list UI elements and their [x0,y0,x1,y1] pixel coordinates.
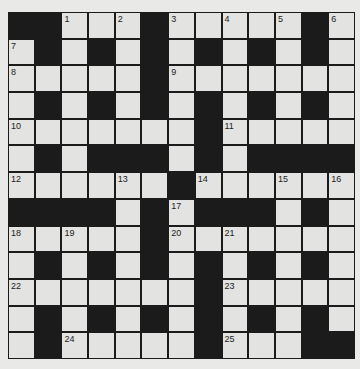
answer-square[interactable] [276,200,301,225]
answer-square[interactable]: 11 [223,120,248,145]
answer-square[interactable]: 1 [62,13,87,38]
answer-square[interactable] [116,93,141,118]
answer-square[interactable] [116,66,141,91]
answer-square[interactable] [89,120,114,145]
answer-square[interactable] [303,120,328,145]
answer-square[interactable] [303,66,328,91]
answer-square[interactable] [36,120,61,145]
answer-square[interactable] [329,253,354,278]
answer-square[interactable] [142,333,167,358]
answer-square[interactable]: 4 [223,13,248,38]
answer-square[interactable] [36,66,61,91]
answer-square[interactable] [276,40,301,65]
answer-square[interactable] [169,333,194,358]
answer-square[interactable] [9,146,34,171]
answer-square[interactable] [303,280,328,305]
answer-square[interactable] [89,173,114,198]
answer-square[interactable] [62,120,87,145]
answer-square[interactable] [276,253,301,278]
answer-square[interactable] [36,173,61,198]
answer-square[interactable] [62,307,87,332]
answer-square[interactable] [276,93,301,118]
answer-square[interactable] [169,146,194,171]
answer-square[interactable] [329,227,354,252]
answer-square[interactable] [9,307,34,332]
answer-square[interactable] [36,227,61,252]
answer-square[interactable] [142,173,167,198]
answer-square[interactable]: 15 [276,173,301,198]
answer-square[interactable] [142,120,167,145]
answer-square[interactable]: 18 [9,227,34,252]
answer-square[interactable] [169,93,194,118]
answer-square[interactable]: 20 [169,227,194,252]
answer-square[interactable] [9,93,34,118]
answer-square[interactable] [196,227,221,252]
answer-square[interactable] [329,66,354,91]
answer-square[interactable] [276,120,301,145]
answer-square[interactable]: 2 [116,13,141,38]
answer-square[interactable] [62,93,87,118]
answer-square[interactable]: 5 [276,13,301,38]
answer-square[interactable] [329,280,354,305]
answer-square[interactable] [169,307,194,332]
answer-square[interactable] [223,253,248,278]
answer-square[interactable] [223,40,248,65]
answer-square[interactable]: 9 [169,66,194,91]
answer-square[interactable] [249,333,274,358]
answer-square[interactable] [89,227,114,252]
answer-square[interactable] [249,66,274,91]
answer-square[interactable] [116,253,141,278]
answer-square[interactable] [329,307,354,332]
answer-square[interactable] [249,173,274,198]
answer-square[interactable] [276,227,301,252]
answer-square[interactable]: 24 [62,333,87,358]
answer-square[interactable]: 25 [223,333,248,358]
answer-square[interactable] [329,200,354,225]
answer-square[interactable] [276,280,301,305]
answer-square[interactable] [116,120,141,145]
answer-square[interactable] [62,173,87,198]
answer-square[interactable]: 14 [196,173,221,198]
answer-square[interactable] [62,40,87,65]
answer-square[interactable]: 16 [329,173,354,198]
answer-square[interactable] [329,120,354,145]
answer-square[interactable]: 12 [9,173,34,198]
answer-square[interactable] [249,120,274,145]
answer-square[interactable] [196,13,221,38]
answer-square[interactable] [62,66,87,91]
answer-square[interactable] [62,280,87,305]
answer-square[interactable] [116,227,141,252]
answer-square[interactable]: 3 [169,13,194,38]
answer-square[interactable] [142,280,167,305]
answer-square[interactable] [169,120,194,145]
answer-square[interactable] [169,253,194,278]
answer-square[interactable] [89,280,114,305]
answer-square[interactable] [249,13,274,38]
answer-square[interactable] [169,40,194,65]
answer-square[interactable]: 13 [116,173,141,198]
answer-square[interactable] [303,173,328,198]
answer-square[interactable] [116,40,141,65]
answer-square[interactable] [223,146,248,171]
answer-square[interactable] [196,66,221,91]
answer-square[interactable] [276,66,301,91]
answer-square[interactable] [116,200,141,225]
answer-square[interactable] [276,307,301,332]
answer-square[interactable]: 8 [9,66,34,91]
answer-square[interactable] [9,333,34,358]
answer-square[interactable] [89,13,114,38]
answer-square[interactable] [116,333,141,358]
answer-square[interactable] [116,280,141,305]
answer-square[interactable] [223,66,248,91]
answer-square[interactable] [89,333,114,358]
answer-square[interactable] [116,307,141,332]
answer-square[interactable] [9,253,34,278]
answer-square[interactable] [303,227,328,252]
answer-square[interactable]: 10 [9,120,34,145]
answer-square[interactable] [329,40,354,65]
answer-square[interactable] [62,253,87,278]
answer-square[interactable] [329,93,354,118]
answer-square[interactable] [249,280,274,305]
answer-square[interactable]: 17 [169,200,194,225]
answer-square[interactable] [223,173,248,198]
